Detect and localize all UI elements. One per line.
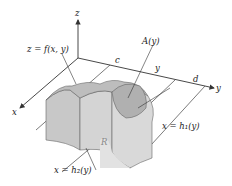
z-axis-label: z [75, 9, 79, 18]
y-slice-label: y [155, 64, 160, 73]
solid-region-diagram [0, 0, 232, 186]
d-label: d [193, 75, 198, 84]
c-label: c [115, 56, 120, 65]
y-axis-label: y [216, 84, 221, 93]
region-label: R [101, 138, 107, 147]
cross-section-label: A(y) [142, 37, 160, 46]
surface-label: z = f(x, y) [27, 45, 69, 54]
solid [46, 80, 153, 168]
left-boundary-label: x = h₂(y) [54, 166, 92, 175]
x-axis-label: x [12, 108, 17, 117]
right-boundary-label: x = h₁(y) [162, 122, 200, 131]
